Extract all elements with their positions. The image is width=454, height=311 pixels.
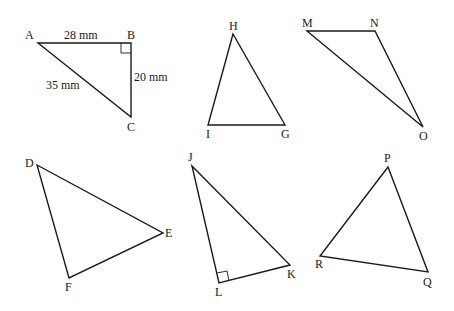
triangle-def-shape: [37, 165, 163, 278]
vertex-label-n: N: [370, 16, 379, 30]
vertex-label-l: L: [215, 285, 222, 299]
triangle-abc: A B C 28 mm 20 mm 35 mm: [25, 28, 168, 134]
diagram-canvas: A B C 28 mm 20 mm 35 mm H I G M N O D E …: [0, 0, 454, 311]
vertex-label-g: G: [281, 127, 290, 141]
vertex-label-h: H: [229, 19, 238, 33]
side-label-ab: 28 mm: [64, 28, 98, 42]
vertex-label-d: D: [25, 156, 34, 170]
triangles-diagram: A B C 28 mm 20 mm 35 mm H I G M N O D E …: [0, 0, 454, 311]
vertex-label-k: K: [287, 267, 296, 281]
vertex-label-r: R: [315, 257, 323, 271]
vertex-label-b: B: [127, 28, 135, 42]
vertex-label-j: J: [188, 150, 193, 164]
triangle-pqr: P Q R: [315, 151, 432, 289]
vertex-label-p: P: [384, 151, 391, 165]
vertex-label-o: O: [419, 129, 428, 143]
vertex-label-i: I: [206, 127, 210, 141]
vertex-label-a: A: [25, 28, 34, 42]
triangle-mno-shape: [307, 31, 423, 127]
triangle-hig: H I G: [206, 19, 290, 141]
vertex-label-f: F: [65, 280, 72, 294]
vertex-label-m: M: [302, 16, 313, 30]
triangle-pqr-shape: [320, 167, 428, 272]
vertex-label-c: C: [127, 120, 135, 134]
triangle-mno: M N O: [302, 16, 428, 143]
triangle-def: D E F: [25, 156, 172, 294]
side-label-bc: 20 mm: [134, 70, 168, 84]
right-angle-marker-b: [121, 43, 131, 53]
side-label-ac: 35 mm: [46, 78, 80, 92]
triangle-hig-shape: [208, 34, 285, 125]
vertex-label-q: Q: [423, 275, 432, 289]
vertex-label-e: E: [165, 226, 172, 240]
triangle-jkl-shape: [192, 166, 290, 283]
triangle-jkl: J K L: [188, 150, 296, 299]
